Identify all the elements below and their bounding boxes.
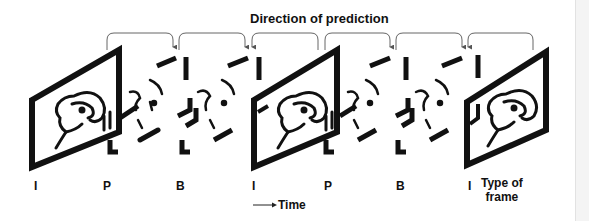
legend-type-of-frame: Type of frame [481,176,523,204]
arc-1 [107,33,173,50]
frame-type-label: B [396,180,405,193]
legend-line-1: Type of [481,176,523,190]
vertical-scrollbar[interactable] [575,0,589,221]
time-label: Time [278,199,306,212]
frame-type-label: I [252,180,255,193]
b-frame-1-detail [198,80,234,128]
arc-6 [468,33,533,50]
b-frame-1 [178,57,248,152]
i-frame-3 [467,52,546,165]
i-frame-1 [32,50,119,167]
p-frame-1-detail [130,80,162,140]
frame-type-label: B [176,180,185,193]
arc-3 [252,33,318,50]
legend-line-2: frame [481,190,523,204]
p-frame-2-detail [348,80,378,128]
time-arrow [253,203,277,208]
prediction-arcs [107,33,533,50]
diagram-title: Direction of prediction [250,12,389,25]
frame-type-label: I [34,180,37,193]
frame-type-label: P [324,180,332,193]
arc-2 [179,33,245,50]
b-frame-2-detail [416,80,448,128]
b-frame-2 [396,57,462,152]
frame-type-label: I [468,180,471,193]
arc-5 [396,33,462,50]
arc-4 [325,33,390,50]
frame-type-label: P [103,180,111,193]
